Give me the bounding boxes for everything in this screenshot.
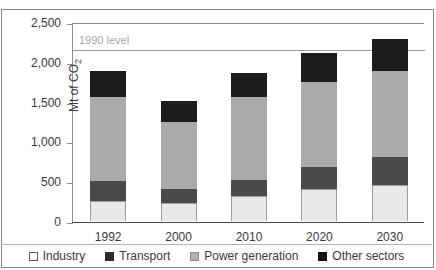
legend-item-label: Industry <box>43 249 86 263</box>
bar-segment-other-sectors[interactable] <box>372 39 408 71</box>
x-axis-tick-label: 2000 <box>149 230 209 244</box>
bar-segment-power-generation[interactable] <box>301 82 337 168</box>
y-axis-tick-label: 2,000 <box>31 56 61 70</box>
plot-area: Mt of CO2 05001,0001,5002,0002,500 1990 … <box>72 23 424 223</box>
bar-segment-industry[interactable] <box>161 203 197 221</box>
legend-swatch-icon <box>105 252 114 261</box>
reference-line-label: 1990 level <box>79 34 129 46</box>
x-axis-tick-label: 2020 <box>289 230 349 244</box>
y-axis-tick-label: 1,500 <box>31 96 61 110</box>
bar-segment-transport[interactable] <box>231 180 267 196</box>
chart-frame: Mt of CO2 05001,0001,5002,0002,500 1990 … <box>1 9 434 268</box>
y-axis-tick-mark <box>67 143 73 144</box>
legend-item-label: Other sectors <box>332 249 404 263</box>
chart-figure: Mt of CO2 05001,0001,5002,0002,500 1990 … <box>0 0 436 270</box>
legend-item-industry[interactable]: Industry <box>29 249 86 263</box>
y-axis-tick-mark <box>67 64 73 65</box>
bar-segment-power-generation[interactable] <box>372 71 408 157</box>
y-axis-tick-mark <box>67 24 73 25</box>
legend-swatch-icon <box>190 252 199 261</box>
bar-segment-other-sectors[interactable] <box>231 73 267 98</box>
y-axis-tick-label: 0 <box>54 215 61 229</box>
legend-swatch-icon <box>318 252 327 261</box>
bar-segment-power-generation[interactable] <box>90 97 126 181</box>
y-axis-label-subscript: 2 <box>73 59 83 64</box>
bar-segment-industry[interactable] <box>231 196 267 221</box>
legend-item-label: Power generation <box>204 249 298 263</box>
legend-item-power-generation[interactable]: Power generation <box>190 249 298 263</box>
chart-legend: IndustryTransportPower generationOther s… <box>1 244 432 267</box>
y-axis-tick-label: 2,500 <box>31 16 61 30</box>
stacked-bar[interactable] <box>161 101 197 221</box>
legend-item-other-sectors[interactable]: Other sectors <box>318 249 404 263</box>
y-axis-tick-label: 500 <box>41 175 61 189</box>
bar-segment-transport[interactable] <box>161 189 197 203</box>
bar-segment-other-sectors[interactable] <box>90 71 126 97</box>
stacked-bar[interactable] <box>231 73 267 221</box>
y-axis-tick-mark <box>67 223 73 224</box>
legend-item-transport[interactable]: Transport <box>105 249 170 263</box>
y-axis-tick-mark <box>67 104 73 105</box>
y-axis-tick-mark <box>67 183 73 184</box>
stacked-bar[interactable] <box>372 39 408 221</box>
legend-swatch-icon <box>29 252 38 261</box>
stacked-bar[interactable] <box>301 53 337 221</box>
y-axis-label-text: Mt of CO <box>67 64 81 112</box>
bar-segment-other-sectors[interactable] <box>161 101 197 122</box>
x-axis-tick-label: 2030 <box>360 230 420 244</box>
cropped-title-sliver <box>0 0 436 9</box>
bar-segment-other-sectors[interactable] <box>301 53 337 82</box>
stacked-bar[interactable] <box>90 71 126 221</box>
bar-segment-transport[interactable] <box>90 181 126 201</box>
x-axis-tick-label: 1992 <box>78 230 138 244</box>
y-axis-tick-label: 1,000 <box>31 135 61 149</box>
bar-segment-industry[interactable] <box>90 201 126 221</box>
bar-segment-power-generation[interactable] <box>161 122 197 189</box>
x-axis-tick-label: 2010 <box>219 230 279 244</box>
bar-segment-transport[interactable] <box>372 157 408 185</box>
legend-item-label: Transport <box>119 249 170 263</box>
bar-segment-power-generation[interactable] <box>231 97 267 180</box>
bar-segment-industry[interactable] <box>301 189 337 221</box>
bar-segment-industry[interactable] <box>372 185 408 221</box>
bar-segment-transport[interactable] <box>301 167 337 189</box>
